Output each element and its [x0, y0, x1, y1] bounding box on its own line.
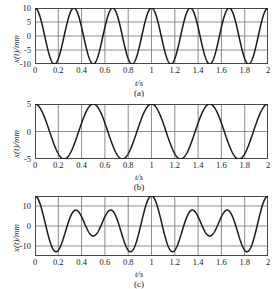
panel-b-x-tick: 0: [33, 161, 37, 170]
panel-c-x-tick: 0.6: [100, 258, 111, 267]
panel-c-y-tick: -10: [20, 242, 31, 251]
panel-b-curve-svg: [35, 104, 268, 159]
panel-c-x-tick: 1.8: [239, 258, 250, 267]
panel-c-x-tick: 0.2: [53, 258, 64, 267]
panel-b-x-tick: 0.8: [123, 161, 134, 170]
panel-b-y-tick-labels: 50-5: [0, 104, 33, 159]
panel-c-x-tick: 0.8: [123, 258, 134, 267]
panel-a-y-tick: 5: [27, 18, 31, 27]
panel-a-x-tick: 1.6: [216, 66, 227, 75]
panel-a-x-axis-label-text: t/s: [135, 78, 143, 88]
panel-c-curve-svg: [35, 196, 268, 256]
panel-b-x-tick-labels: 00.20.40.60.811.21.41.61.82: [35, 161, 268, 172]
panel-b-x-axis-label-text: t/s: [135, 172, 143, 182]
panel-c-x-tick: 1.2: [169, 258, 180, 267]
panel-b-x-axis-label: t/s: [0, 173, 278, 182]
panel-b-y-tick: 0: [27, 127, 31, 136]
panel-c-y-tick-labels: 100-10: [0, 196, 33, 256]
panel-a-x-tick: 0.6: [100, 66, 111, 75]
panel-a-x-tick: 0.2: [53, 66, 64, 75]
panel-a-curve-svg: [35, 8, 268, 64]
panel-a-x-tick-labels: 00.20.40.60.811.21.41.61.82: [35, 66, 268, 77]
panel-a-x-tick: 1: [149, 66, 153, 75]
panel-c-x-axis-label: t/s: [0, 270, 278, 279]
panel-b-x-tick: 0.2: [53, 161, 64, 170]
panel-b-x-tick: 0.4: [76, 161, 87, 170]
panel-a-y-tick: -10: [20, 60, 31, 69]
panel-a: x(t)/mm 1050-5-10 00.20.40.60.811.21.41.…: [0, 0, 278, 98]
panel-b-x-tick: 1.4: [193, 161, 204, 170]
panel-c-x-tick: 1: [149, 258, 153, 267]
panel-b-y-tick: 5: [27, 100, 31, 109]
panel-c-x-tick-labels: 00.20.40.60.811.21.41.61.82: [35, 258, 268, 269]
panel-a-x-tick: 0: [33, 66, 37, 75]
panel-c-y-tick: 0: [27, 222, 31, 231]
panel-b-x-tick: 1.8: [239, 161, 250, 170]
panel-a-y-tick: 0: [27, 32, 31, 41]
panel-b-y-tick: -5: [24, 155, 31, 164]
panel-a-x-tick: 0.8: [123, 66, 134, 75]
panel-c-y-tick: 10: [23, 202, 32, 211]
panel-b-x-tick: 0.6: [100, 161, 111, 170]
panel-c-caption: (c): [0, 280, 278, 289]
panel-b-plot-area: [35, 104, 268, 159]
panel-a-x-tick: 1.2: [169, 66, 180, 75]
panel-c-x-axis-label-text: t/s: [135, 269, 143, 279]
panel-b-x-tick: 2: [266, 161, 270, 170]
panel-c: x(t)/mm 100-10 00.20.40.60.811.21.41.61.…: [0, 188, 278, 287]
panel-b-x-tick: 1.2: [169, 161, 180, 170]
panel-c-x-tick: 1.4: [193, 258, 204, 267]
panel-c-plot-area: [35, 196, 268, 256]
panel-a-x-tick: 2: [266, 66, 270, 75]
panel-b-x-tick: 1: [149, 161, 153, 170]
panel-a-x-tick: 1.4: [193, 66, 204, 75]
panel-c-x-tick: 1.6: [216, 258, 227, 267]
panel-a-x-tick: 1.8: [239, 66, 250, 75]
panel-a-y-tick: -5: [24, 46, 31, 55]
panel-a-y-tick: 10: [23, 4, 32, 13]
panel-a-x-tick: 0.4: [76, 66, 87, 75]
panel-b-x-tick: 1.6: [216, 161, 227, 170]
panel-a-plot-area: [35, 8, 268, 64]
panel-a-x-axis-label: t/s: [0, 79, 278, 88]
panel-c-x-tick: 0.4: [76, 258, 87, 267]
panel-b: x(t)/mm 50-5 00.20.40.60.811.21.41.61.82…: [0, 96, 278, 191]
panel-a-y-tick-labels: 1050-5-10: [0, 8, 33, 64]
panel-c-x-tick: 2: [266, 258, 270, 267]
panel-c-x-tick: 0: [33, 258, 37, 267]
